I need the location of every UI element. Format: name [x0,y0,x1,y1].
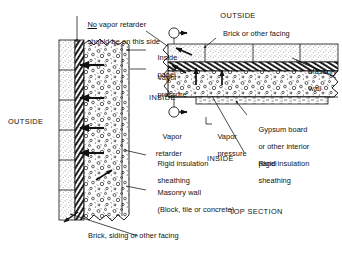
label-no-emphasis: No [87,20,97,29]
label-brick-or-other-facing: Brick or other facing [223,30,333,39]
label-masonry-wall-right-line1: Masonry [308,67,337,76]
label-no-vapor-retarder-rest: vapor retarder [97,20,146,29]
label-inside-panel-line1: Inside [157,53,177,62]
diagram-canvas: No vapor retarder should be on this side… [0,0,342,255]
label-inside-left: INSIDE [149,94,195,103]
left-brick-facing-layer [59,40,75,220]
left-vapor-retarder-layer [75,40,84,220]
label-gypsum-board-line2: or other interior [258,142,309,151]
label-outside-top-right: OUTSIDE [198,12,278,21]
label-vapor-retarder-line1: Vapor [163,132,182,141]
label-brick-siding-other-facing: Brick, siding or other facing [88,232,238,241]
label-rigid-insulation-right-line1: Rigid insulation [258,159,309,168]
label-masonry-wall-left-line1: Masonry wall [157,188,201,197]
label-masonry-wall-right: Masonry wall [300,59,342,102]
left-wall-section [59,39,129,222]
label-gypsum-board-line1: Gypsum board [258,125,307,134]
label-outside-left: OUTSIDE [8,118,60,127]
label-inside-right: INSIDE [207,155,251,164]
label-vapor-pressure-right-line1: Vapor [217,132,236,141]
label-vapor-pressure-left-line1: Vapor [157,73,176,82]
label-masonry-wall-left-line2: (Block, tile or concrete) [157,205,234,214]
label-rigid-insulation-left-line1: Rigid insulation [157,159,208,168]
label-masonry-wall-right-line2: wall [308,84,321,93]
label-top-section-caption: TOP SECTION [229,208,309,217]
